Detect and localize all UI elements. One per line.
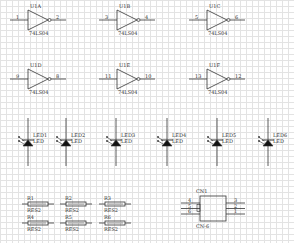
component-ref: U1E (119, 62, 130, 68)
component-value: LED (222, 138, 233, 144)
component-ref: U1F (209, 62, 220, 68)
resistor-r5[interactable]: R5RES2 (60, 214, 92, 232)
resistor-r4[interactable]: R4RES2 (22, 214, 54, 232)
led-led5[interactable]: LED5LED (207, 118, 236, 166)
component-ref: R3 (104, 195, 111, 201)
component-part: CN-6 (196, 223, 209, 229)
pin-number: 12 (235, 73, 241, 79)
led-led6[interactable]: LED6LED (258, 118, 287, 166)
inverter-u1e[interactable]: 1110U1E74LS04 (99, 62, 155, 95)
component-ref: R2 (65, 195, 72, 201)
component-value: RES2 (104, 207, 118, 213)
pin-number: 10 (145, 73, 151, 79)
component-part: 74LS04 (29, 89, 48, 95)
pin-number: 4 (145, 14, 148, 20)
resistor-r6[interactable]: R6RES2 (99, 214, 131, 232)
pin-number: 13 (195, 73, 201, 79)
component-part: 74LS04 (29, 30, 48, 36)
component-part: 74LS04 (208, 89, 227, 95)
component-ref: U1A (30, 3, 41, 9)
component-ref: R1 (27, 195, 34, 201)
component-value: RES2 (27, 226, 41, 232)
component-ref: U1D (30, 62, 41, 68)
pin-number: 1 (16, 14, 19, 20)
component-value: RES2 (104, 226, 118, 232)
component-ref: U1C (209, 3, 220, 9)
component-ref: R5 (65, 214, 72, 220)
component-value: LED (172, 138, 183, 144)
led-led3[interactable]: LED3LED (106, 118, 135, 166)
inverter-u1b[interactable]: 34U1B74LS04 (99, 3, 155, 36)
component-value: LED (121, 138, 132, 144)
resistor-r3[interactable]: R3RES2 (99, 195, 131, 213)
led-led4[interactable]: LED4LED (157, 118, 186, 166)
component-value: LED (273, 138, 284, 144)
inverter-u1f[interactable]: 1312U1F74LS04 (189, 62, 245, 95)
led-led2[interactable]: LED2LED (56, 118, 85, 166)
resistor-r1[interactable]: R1RES2 (22, 195, 54, 213)
pin-number: 5 (195, 14, 198, 20)
inverter-u1d[interactable]: 98U1D74LS04 (10, 62, 66, 95)
inverter-u1a[interactable]: 12U1A74LS04 (10, 3, 66, 36)
component-part: 74LS04 (118, 30, 137, 36)
component-part: 74LS04 (118, 89, 137, 95)
component-value: LED (71, 138, 82, 144)
component-ref: U1B (119, 3, 130, 9)
component-part: 74LS04 (208, 30, 227, 36)
pin-number: 2 (56, 14, 59, 20)
pin-number: 8 (56, 73, 59, 79)
pin-number: 1 (234, 208, 237, 214)
pin-number: 3 (105, 14, 108, 20)
component-ref: R4 (27, 214, 34, 220)
led-led1[interactable]: LED1LED (18, 118, 47, 166)
component-value: RES2 (27, 207, 41, 213)
resistor-r2[interactable]: R2RES2 (60, 195, 92, 213)
schematic-drawing: 12U1A74LS0434U1B74LS0456U1C74LS0498U1D74… (0, 0, 294, 243)
component-ref: CN1 (196, 188, 207, 194)
pin-number: 6 (188, 208, 191, 214)
pin-number: 6 (235, 14, 238, 20)
inverter-u1c[interactable]: 56U1C74LS04 (189, 3, 245, 36)
connector-cn1[interactable]: 435261CN1CN-6 (181, 188, 245, 229)
component-value: RES2 (65, 226, 79, 232)
pin-number: 11 (105, 73, 111, 79)
pin-number: 9 (16, 73, 19, 79)
component-ref: R6 (104, 214, 111, 220)
component-value: LED (33, 138, 44, 144)
component-value: RES2 (65, 207, 79, 213)
